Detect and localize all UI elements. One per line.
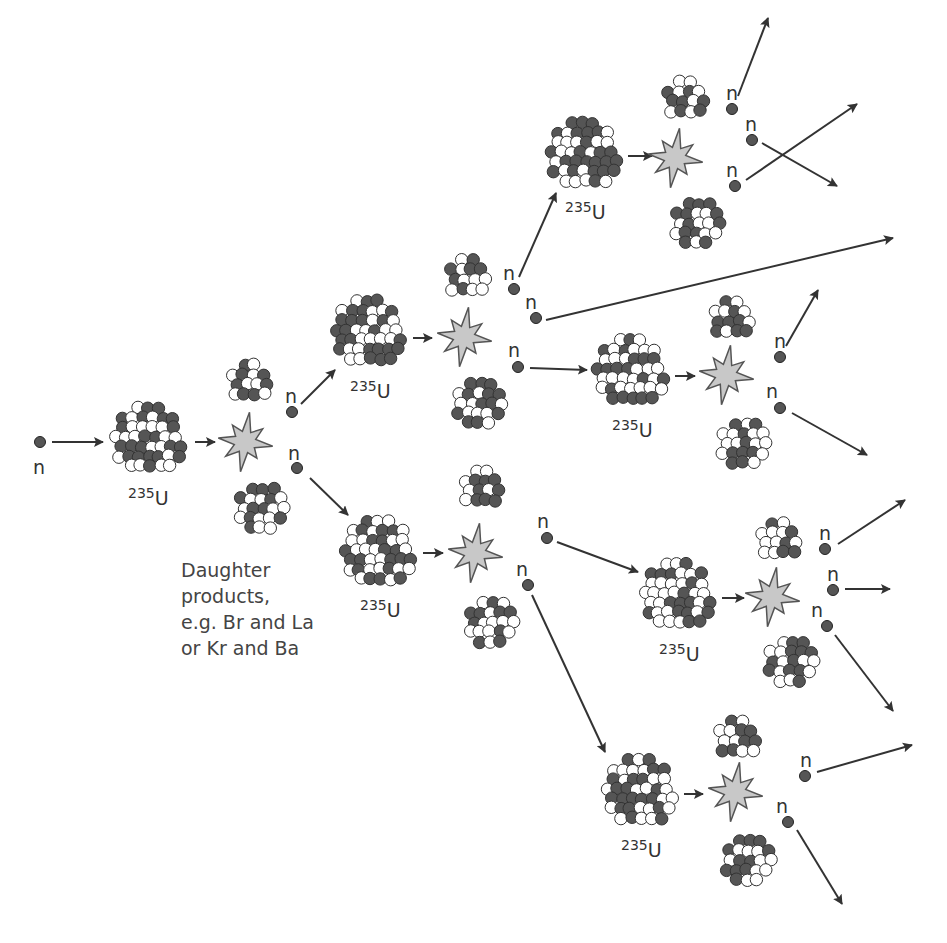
uranium-235-nucleus: [601, 753, 678, 825]
neutron: [35, 437, 46, 448]
neutron: [509, 284, 520, 295]
neutron-arrow: [557, 542, 638, 572]
neutron-arrow: [530, 368, 587, 370]
neutron: [531, 313, 542, 324]
isotope-label: 235U: [350, 378, 391, 402]
neutron-label: n: [288, 442, 300, 464]
neutron: [800, 771, 811, 782]
uranium-235-nucleus: [110, 401, 187, 472]
caption-line-2: products,: [181, 583, 381, 609]
neutron-label: n: [516, 558, 528, 580]
neutron-label: n: [508, 339, 520, 361]
neutron-label: n: [726, 159, 738, 181]
daughter-products: [227, 75, 821, 886]
neutron-arrow: [310, 478, 348, 515]
daughter-nucleus: [452, 377, 508, 429]
isotope-label: 235U: [128, 485, 169, 509]
uranium-235-nucleus: [640, 557, 717, 628]
neutron-label: n: [774, 330, 786, 352]
neutron-arrow: [762, 143, 837, 186]
neutron-label: n: [776, 795, 788, 817]
daughter-nucleus: [709, 296, 755, 338]
daughter-nucleus: [465, 596, 520, 648]
daughter-nucleus: [445, 254, 492, 297]
fission-flash-icon: [448, 523, 502, 582]
neutron: [783, 817, 794, 828]
neutron-label: n: [726, 82, 738, 104]
neutron-arrow: [817, 745, 912, 772]
daughter-nucleus: [670, 198, 726, 249]
fission-flash-icon: [745, 567, 799, 626]
caption-line-1: Daughter: [181, 557, 381, 583]
neutron-label: n: [525, 291, 537, 313]
daughter-products-caption: Daughter products, e.g. Br and La or Kr …: [181, 557, 381, 661]
neutron-label: n: [285, 385, 297, 407]
neutron: [730, 181, 741, 192]
isotope-labels: 235U235U235U235U235U235U235U: [128, 199, 700, 861]
caption-line-4: or Kr and Ba: [181, 635, 381, 661]
neutron-label: n: [766, 380, 778, 402]
uranium-235-nucleus: [591, 334, 670, 405]
fission-flash-icon: [699, 345, 753, 404]
neutron: [828, 585, 839, 596]
fission-flash-icon: [218, 412, 272, 471]
neutron-label: n: [800, 749, 812, 771]
fission-chain-diagram: nnnnnnnnnnnnnnnnnn 235U235U235U235U235U2…: [0, 0, 947, 943]
neutron-arrow: [838, 500, 905, 544]
daughter-nucleus: [227, 358, 273, 401]
neutron: [747, 135, 758, 146]
neutron-arrow: [835, 635, 893, 711]
neutron: [287, 407, 298, 418]
neutron-label: n: [819, 522, 831, 544]
neutron-label: n: [745, 113, 757, 135]
daughter-nucleus: [234, 482, 290, 534]
neutron: [523, 580, 534, 591]
daughter-nucleus: [763, 637, 820, 688]
caption-line-3: e.g. Br and La: [181, 609, 381, 635]
neutron-label: n: [503, 262, 515, 284]
neutron-label: n: [33, 456, 45, 478]
neutron-arrow: [532, 595, 605, 752]
daughter-nucleus: [756, 517, 802, 559]
fission-flash-icon: [437, 307, 491, 366]
daughter-nucleus: [662, 75, 710, 118]
neutron: [775, 352, 786, 363]
neutron-arrow: [738, 18, 768, 96]
neutron-arrow: [797, 830, 842, 904]
uranium-nuclei: [110, 116, 716, 825]
daughter-nucleus: [720, 834, 777, 886]
neutron-arrow: [792, 413, 867, 455]
neutron-label: n: [537, 510, 549, 532]
neutron: [775, 403, 786, 414]
isotope-label: 235U: [659, 641, 700, 665]
daughter-nucleus: [714, 715, 762, 757]
neutron: [542, 533, 553, 544]
neutron-arrow: [786, 290, 818, 346]
neutron: [292, 463, 303, 474]
neutron-label: n: [827, 563, 839, 585]
fission-flash-icon: [708, 762, 762, 821]
neutron: [822, 621, 833, 632]
isotope-label: 235U: [612, 417, 653, 441]
uranium-235-nucleus: [545, 116, 623, 188]
uranium-235-nucleus: [331, 294, 407, 366]
neutron: [820, 544, 831, 555]
fission-flash-icon: [648, 128, 702, 187]
neutron-label: n: [811, 599, 823, 621]
isotope-label: 235U: [621, 837, 662, 861]
daughter-nucleus: [716, 418, 772, 469]
isotope-label: 235U: [565, 199, 606, 223]
neutron-arrow: [301, 370, 335, 404]
neutron: [727, 104, 738, 115]
neutron-arrow: [519, 193, 556, 277]
daughter-nucleus: [459, 465, 504, 507]
neutron-arrow: [746, 104, 857, 180]
neutron: [513, 362, 524, 373]
